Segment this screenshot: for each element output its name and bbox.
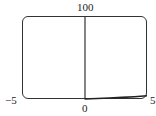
y-min-label: 0	[82, 103, 88, 114]
x-min-label: −5	[5, 95, 17, 106]
y-max-label: 100	[77, 2, 94, 13]
plot-area	[0, 0, 156, 116]
data-curve	[85, 96, 148, 99]
x-max-label: 5	[150, 95, 156, 106]
